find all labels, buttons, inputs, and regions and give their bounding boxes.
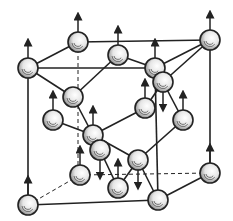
atom xyxy=(200,14,220,50)
bond-line xyxy=(28,200,158,205)
atom xyxy=(148,190,168,210)
bond-line xyxy=(78,40,210,42)
atom xyxy=(135,82,155,118)
atom xyxy=(90,140,110,176)
atom xyxy=(18,179,38,215)
atom xyxy=(108,29,128,65)
atom xyxy=(128,150,148,186)
atom xyxy=(63,87,83,107)
atom xyxy=(43,94,63,130)
atom xyxy=(70,149,90,185)
atoms-layer xyxy=(18,14,220,215)
atom xyxy=(200,147,220,183)
atom xyxy=(108,162,128,198)
atom xyxy=(68,16,88,52)
atom xyxy=(18,42,38,78)
crystal-lattice-diagram xyxy=(0,0,233,221)
atom xyxy=(173,94,193,130)
